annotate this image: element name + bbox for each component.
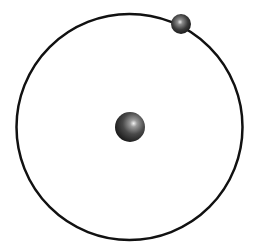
atom-svg	[0, 0, 256, 252]
nucleus	[115, 112, 145, 142]
atom-diagram	[0, 0, 256, 252]
electron	[171, 14, 191, 34]
